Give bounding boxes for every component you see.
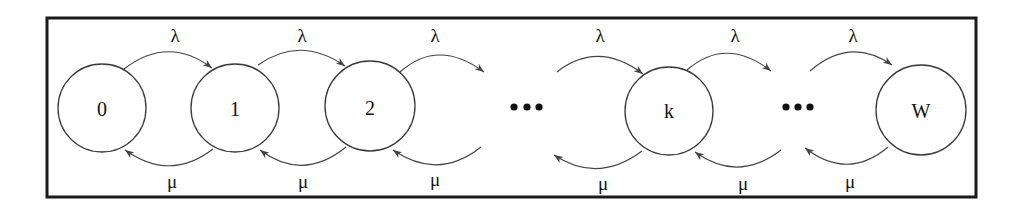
arc-ellipsis-to-k-back (695, 150, 781, 167)
ellipsis-dot (794, 103, 801, 110)
mu-label: μ (845, 171, 855, 192)
lambda-label: λ (297, 25, 307, 46)
state-0: 0 (58, 64, 146, 152)
arc-ellipsis-to-k (557, 56, 643, 74)
arc-ellipsis-to-w (810, 52, 892, 71)
mu-label: μ (598, 173, 608, 194)
mu-label: μ (430, 169, 440, 190)
arc-k-to-ellipsis-back (554, 151, 642, 169)
ellipsis-dots-2 (782, 103, 813, 110)
state-label: 2 (365, 97, 375, 119)
arc-ellipsis-to-2 (393, 147, 481, 165)
markov-chain-diagram: 0 1 2 k W λ λ λ λ λ λ μ μ μ μ (0, 0, 1023, 210)
mu-label: μ (298, 171, 308, 192)
state-label: W (912, 100, 931, 122)
ellipsis-dot (535, 103, 542, 110)
lambda-label: λ (848, 25, 858, 46)
lambda-label: λ (430, 25, 440, 46)
arc-2-to-1 (260, 147, 346, 165)
state-1: 1 (191, 64, 279, 152)
lambda-label: λ (730, 25, 740, 46)
ellipsis-dot (523, 103, 530, 110)
state-w: W (876, 65, 966, 155)
ellipsis-dot (510, 103, 517, 110)
mu-label: μ (738, 173, 748, 194)
arc-2-to-ellipsis (400, 55, 484, 72)
ellipsis-dot (806, 103, 813, 110)
mu-label: μ (167, 171, 177, 192)
state-label: 1 (230, 98, 240, 120)
arrival-rate-labels: λ λ λ λ λ λ (170, 25, 858, 46)
state-2: 2 (325, 61, 415, 151)
arc-0-to-1 (124, 52, 212, 69)
arc-w-to-ellipsis (805, 147, 888, 164)
arc-1-to-0 (125, 149, 213, 166)
arc-1-to-2 (258, 50, 345, 66)
lambda-label: λ (595, 25, 605, 46)
state-label: 0 (97, 98, 107, 120)
ellipsis-dots-1 (510, 103, 542, 110)
arc-k-to-ellipsis (687, 53, 771, 71)
lambda-label: λ (170, 25, 180, 46)
state-k: k (625, 67, 713, 155)
ellipsis-dot (782, 103, 789, 110)
service-rate-labels: μ μ μ μ μ μ (167, 169, 855, 194)
state-label: k (664, 100, 674, 122)
